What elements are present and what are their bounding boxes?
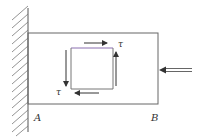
label-a: A bbox=[33, 112, 41, 123]
label-b: B bbox=[150, 112, 158, 123]
fixed-wall-support bbox=[12, 6, 28, 136]
beam-diagram: τ τ A B bbox=[0, 0, 200, 137]
tau-label-left: τ bbox=[56, 87, 62, 97]
tau-label-top: τ bbox=[118, 39, 124, 49]
stress-element bbox=[71, 48, 113, 89]
axial-force-arrow bbox=[159, 67, 192, 74]
